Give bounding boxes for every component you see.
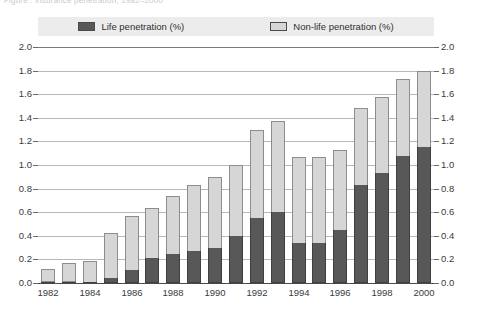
y-tick-right-0.6: 0.6 [441, 207, 471, 217]
bar-column-1996[interactable] [333, 47, 347, 283]
bar-segment-life-1991[interactable] [229, 236, 243, 283]
bar-column-2000[interactable] [417, 47, 431, 283]
bar-segment-nonlife-1987[interactable] [145, 208, 159, 259]
legend-label-life: Life penetration (%) [101, 21, 184, 32]
bar-segment-nonlife-1984[interactable] [83, 261, 97, 282]
y-tick-right-0.8: 0.8 [441, 184, 471, 194]
bar-column-1992[interactable] [250, 47, 264, 283]
bar-segment-nonlife-1999[interactable] [396, 79, 410, 156]
bar-segment-life-1992[interactable] [250, 218, 264, 283]
bar-column-1983[interactable] [62, 47, 76, 283]
bar-segment-nonlife-1995[interactable] [312, 157, 326, 243]
bar-segment-nonlife-1985[interactable] [104, 233, 118, 278]
bar-segment-nonlife-1989[interactable] [187, 185, 201, 251]
bar-segment-nonlife-1983[interactable] [62, 263, 76, 282]
bar-column-1989[interactable] [187, 47, 201, 283]
bar-column-1991[interactable] [229, 47, 243, 283]
y-tick-left-1.8: 1.8 [2, 66, 32, 76]
bar-series-group [38, 47, 434, 283]
bar-segment-nonlife-1982[interactable] [41, 269, 55, 282]
bar-segment-nonlife-1990[interactable] [208, 177, 222, 248]
y-tick-left-1.6: 1.6 [2, 89, 32, 99]
bar-column-1997[interactable] [354, 47, 368, 283]
y-tick-mark-left-1.0 [33, 165, 38, 166]
y-tick-left-1.0: 1.0 [2, 160, 32, 170]
y-tick-mark-right-1.4 [434, 118, 439, 119]
bar-column-1987[interactable] [145, 47, 159, 283]
bar-column-1990[interactable] [208, 47, 222, 283]
y-tick-right-2.0: 2.0 [441, 42, 471, 52]
bar-segment-life-1990[interactable] [208, 248, 222, 283]
bar-column-1982[interactable] [41, 47, 55, 283]
bar-segment-life-1986[interactable] [125, 270, 139, 283]
bar-segment-life-1984[interactable] [83, 282, 97, 283]
bar-column-1995[interactable] [312, 47, 326, 283]
bar-segment-life-1997[interactable] [354, 185, 368, 283]
bar-segment-life-1993[interactable] [271, 212, 285, 283]
bar-column-1984[interactable] [83, 47, 97, 283]
legend-label-nonlife: Non-life penetration (%) [293, 21, 393, 32]
gridline-0.0 [38, 283, 434, 284]
bar-segment-nonlife-1986[interactable] [125, 216, 139, 270]
x-tick-1992: 1992 [246, 288, 267, 298]
bar-segment-life-2000[interactable] [417, 147, 431, 283]
bar-column-1993[interactable] [271, 47, 285, 283]
y-tick-mark-left-0.0 [33, 283, 38, 284]
bar-segment-nonlife-1996[interactable] [333, 150, 347, 230]
bar-column-1985[interactable] [104, 47, 118, 283]
y-tick-mark-left-1.6 [33, 94, 38, 95]
bar-column-1994[interactable] [292, 47, 306, 283]
legend-item-nonlife: Non-life penetration (%) [270, 21, 393, 32]
bar-segment-life-1985[interactable] [104, 278, 118, 283]
bar-segment-life-1988[interactable] [166, 254, 180, 284]
y-tick-left-0.4: 0.4 [2, 231, 32, 241]
bar-segment-nonlife-1993[interactable] [271, 121, 285, 212]
x-tick-1990: 1990 [204, 288, 225, 298]
y-tick-mark-right-0.6 [434, 212, 439, 213]
y-tick-right-0.0: 0.0 [441, 278, 471, 288]
bar-segment-life-1983[interactable] [62, 282, 76, 283]
bar-segment-nonlife-1994[interactable] [292, 157, 306, 243]
bar-segment-life-1987[interactable] [145, 258, 159, 283]
bar-segment-life-1982[interactable] [41, 282, 55, 283]
y-tick-left-1.2: 1.2 [2, 136, 32, 146]
bar-segment-nonlife-1998[interactable] [375, 97, 389, 174]
y-tick-right-0.4: 0.4 [441, 231, 471, 241]
y-tick-right-1.6: 1.6 [441, 89, 471, 99]
bar-segment-nonlife-1997[interactable] [354, 108, 368, 185]
bar-segment-life-1989[interactable] [187, 251, 201, 283]
bar-column-1988[interactable] [166, 47, 180, 283]
y-tick-right-1.0: 1.0 [441, 160, 471, 170]
y-tick-mark-left-0.6 [33, 212, 38, 213]
x-tick-1988: 1988 [162, 288, 183, 298]
x-axis: 1982198419861988199019921994199619982000 [38, 288, 434, 304]
chart-legend: Life penetration (%) Non-life penetratio… [38, 17, 434, 36]
x-tick-1986: 1986 [121, 288, 142, 298]
bar-segment-nonlife-1991[interactable] [229, 165, 243, 236]
caption-text: Figure : insurance penetration, 1982–200… [4, 0, 163, 5]
y-tick-mark-right-0.4 [434, 236, 439, 237]
bar-segment-life-1995[interactable] [312, 243, 326, 283]
bar-segment-life-1999[interactable] [396, 156, 410, 283]
y-tick-mark-right-1.0 [434, 165, 439, 166]
bar-column-1999[interactable] [396, 47, 410, 283]
x-tick-1998: 1998 [371, 288, 392, 298]
y-tick-mark-right-2.0 [434, 47, 439, 48]
bar-segment-nonlife-1992[interactable] [250, 130, 264, 219]
y-tick-left-2.0: 2.0 [2, 42, 32, 52]
x-tick-1982: 1982 [37, 288, 58, 298]
bar-segment-life-1996[interactable] [333, 230, 347, 283]
y-tick-left-0.8: 0.8 [2, 184, 32, 194]
plot-area [38, 47, 434, 283]
x-tick-2000: 2000 [413, 288, 434, 298]
bar-column-1998[interactable] [375, 47, 389, 283]
x-tick-1994: 1994 [288, 288, 309, 298]
bar-column-1986[interactable] [125, 47, 139, 283]
bar-segment-life-1994[interactable] [292, 243, 306, 283]
y-tick-mark-left-1.4 [33, 118, 38, 119]
legend-item-life: Life penetration (%) [78, 21, 184, 32]
bar-segment-nonlife-2000[interactable] [417, 71, 431, 148]
bar-segment-life-1998[interactable] [375, 173, 389, 283]
y-tick-right-1.8: 1.8 [441, 66, 471, 76]
bar-segment-nonlife-1988[interactable] [166, 196, 180, 254]
